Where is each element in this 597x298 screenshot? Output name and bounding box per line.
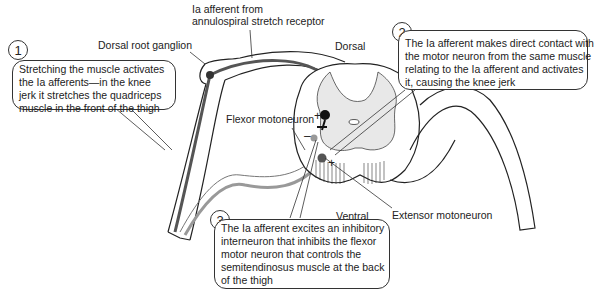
ia-afferent-label: Ia afferent from annulospiral stretch re… [192, 3, 325, 27]
interneuron-cell-icon [311, 135, 318, 142]
extensor-motoneuron-label: Extensor motoneuron [392, 209, 492, 221]
callout-3: The Ia afferent excites an inhibitoryint… [214, 219, 390, 289]
flexor-motoneuron-cell-icon [320, 110, 330, 120]
dorsal-label: Dorsal [335, 40, 365, 52]
ganglion-cell-body-icon [206, 71, 214, 79]
plus-sign: + [314, 110, 321, 122]
callout-1: Stretching the muscle activatesthe Ia af… [12, 60, 176, 110]
plus-sign-extensor: + [328, 157, 335, 169]
minus-sign: – [304, 130, 311, 142]
callout-number-1: 1 [8, 40, 28, 60]
callout-2: The Ia afferent makes direct contact wit… [398, 30, 588, 90]
flexor-motoneuron-label: Flexor motoneuron [226, 113, 314, 125]
dorsal-root-ganglion-label: Dorsal root ganglion [98, 39, 192, 51]
